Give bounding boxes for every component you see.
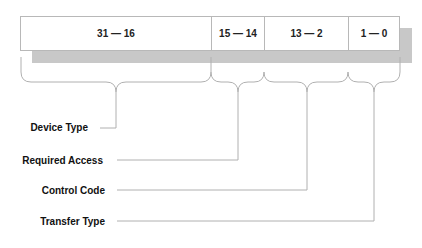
brace-control-code: [264, 72, 348, 92]
brace-transfer-type: [348, 57, 400, 92]
label-control-code: Control Code: [42, 185, 105, 196]
label-required-access: Required Access: [22, 155, 103, 166]
leader-control-code: [117, 92, 307, 190]
leader-device-type: [100, 92, 116, 128]
label-transfer-type: Transfer Type: [40, 216, 105, 227]
leader-required-access: [117, 92, 238, 160]
label-device-type: Device Type: [30, 122, 88, 133]
brace-required-access: [211, 72, 264, 92]
leader-transfer-type: [117, 92, 374, 221]
brace-device-type: [21, 57, 211, 92]
